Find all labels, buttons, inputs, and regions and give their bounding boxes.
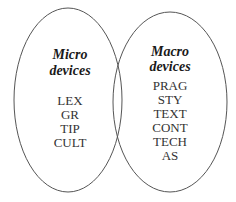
macro-item-tech: TECH: [153, 134, 187, 149]
micro-item-gr: GR: [61, 107, 79, 122]
macro-item-as: AS: [162, 148, 179, 163]
macro-item-text: TEXT: [153, 106, 186, 121]
macro-item-prag: PRAG: [153, 78, 188, 93]
micro-title-line2: devices: [49, 63, 91, 78]
macro-title-line1: Macro: [150, 44, 189, 59]
micro-item-cult: CULT: [54, 135, 87, 150]
micro-item-tip: TIP: [60, 121, 80, 136]
venn-diagram: Micro devices LEX GR TIP CULT Macro devi…: [0, 0, 236, 202]
macro-item-cont: CONT: [152, 120, 187, 135]
micro-item-lex: LEX: [57, 93, 83, 108]
micro-title-line1: Micro: [52, 47, 88, 62]
macro-title-line2: devices: [149, 59, 191, 74]
macro-item-sty: STY: [158, 92, 183, 107]
